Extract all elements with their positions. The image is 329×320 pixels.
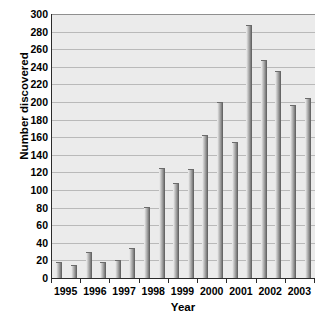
y-tick-label: 20 [20,255,48,265]
x-tick [168,278,169,283]
bar-chart: Number discovered 0204060801001201401601… [0,0,329,320]
bar [86,252,92,278]
y-tick-label: 140 [20,150,48,160]
bar [56,262,62,278]
y-tick-label: 260 [20,44,48,54]
bar [275,71,281,278]
x-axis-title: Year [51,301,315,313]
y-tick-label: 80 [20,203,48,213]
y-tick-label: 160 [20,132,48,142]
bar [305,98,311,278]
y-tick-label: 100 [20,185,48,195]
x-tick [139,278,140,283]
x-tick [80,278,81,283]
y-tick-label: 280 [20,27,48,37]
x-tick [256,278,257,283]
bar [71,265,77,278]
y-tick-label: 200 [20,97,48,107]
x-tick [226,278,227,283]
plot-inner [52,14,315,278]
x-axis-tick-labels: 199519961997199819992000200120022003 [51,285,315,299]
bar [188,169,194,278]
bar [115,260,121,278]
bar [217,102,223,278]
x-tick-label: 2003 [279,285,319,297]
bar [246,25,252,278]
y-tick-label: 180 [20,115,48,125]
x-tick [314,278,315,283]
bar [202,135,208,278]
bar [129,248,135,278]
bar [173,183,179,278]
bar [144,207,150,278]
y-tick-label: 240 [20,62,48,72]
y-tick-label: 60 [20,220,48,230]
bar-series [52,14,315,278]
y-tick-label: 0 [20,273,48,283]
y-tick-label: 300 [20,9,48,19]
y-tick-label: 40 [20,238,48,248]
bar [100,262,106,278]
bar [261,60,267,278]
x-axis-ticks [51,278,315,283]
bar [290,105,296,278]
bar [232,142,238,278]
bar [159,168,165,278]
x-tick [109,278,110,283]
y-axis-tick-labels: 0204060801001201401601802002202402602803… [20,8,48,286]
y-tick-label: 220 [20,79,48,89]
x-tick [51,278,52,283]
x-tick [197,278,198,283]
y-tick-label: 120 [20,167,48,177]
plot-area [51,14,315,279]
x-tick [285,278,286,283]
